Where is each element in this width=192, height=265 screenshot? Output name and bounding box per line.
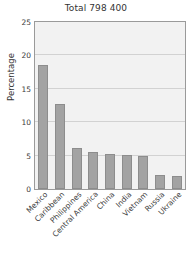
bar bbox=[55, 104, 65, 190]
y-tick-label: 10 bbox=[3, 118, 31, 127]
bar-chart-figure: Total 798 400 Percentage 0510152025 Mexi… bbox=[0, 0, 192, 265]
bar-series bbox=[35, 22, 185, 189]
y-tick-label: 25 bbox=[3, 18, 31, 27]
bar bbox=[122, 155, 132, 189]
x-axis-ticks: MexicoCaribbeanPhilippinesCentral Americ… bbox=[0, 190, 192, 265]
bar bbox=[88, 152, 98, 189]
bar bbox=[72, 148, 82, 189]
y-tick-label: 5 bbox=[3, 151, 31, 160]
bar bbox=[138, 156, 148, 189]
y-tick-label: 15 bbox=[3, 84, 31, 93]
bar bbox=[155, 175, 165, 189]
chart-title: Total 798 400 bbox=[0, 3, 192, 13]
bar bbox=[105, 154, 115, 189]
bar bbox=[172, 176, 182, 189]
bar bbox=[38, 65, 48, 189]
y-tick-label: 20 bbox=[3, 51, 31, 60]
y-axis-ticks: 0510152025 bbox=[0, 21, 31, 190]
